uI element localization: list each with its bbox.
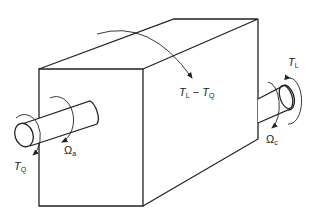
label-torque-output: TL [288,56,299,69]
label-omega-output: Ωc [266,133,278,146]
label-torque-input: TQ [14,160,26,173]
output-shaft [258,84,295,123]
machine-diagram [0,0,311,218]
label-omega-input: Ωa [64,144,76,157]
box-side-edges [143,19,258,206]
label-reaction-torque: TL − TQ [179,86,214,99]
box-top-edges [39,19,258,69]
